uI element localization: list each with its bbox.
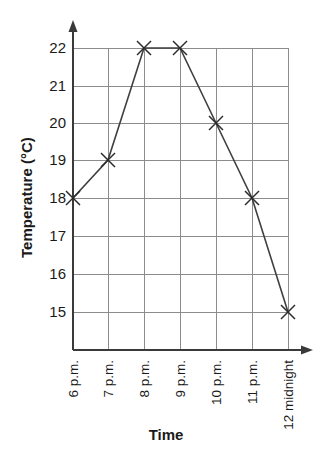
y-tick-label-6: 16 xyxy=(49,265,66,282)
y-axis xyxy=(69,20,78,350)
x-tick-label-5: 11 p.m. xyxy=(245,360,260,404)
x-tick-label-0: 6 p.m. xyxy=(66,360,81,398)
x-tick-label-6: 12 midnight xyxy=(281,360,296,430)
y-tick-labels: 22 21 20 19 18 17 16 15 xyxy=(49,39,66,320)
y-tick-label-2: 20 xyxy=(49,114,66,131)
y-axis-arrowhead xyxy=(69,20,78,32)
x-tick-label-4: 10 p.m. xyxy=(209,360,224,405)
x-axis xyxy=(73,346,313,355)
y-tick-label-7: 15 xyxy=(49,303,66,320)
y-tick-label-1: 21 xyxy=(49,77,66,94)
y-tick-label-3: 19 xyxy=(49,151,66,168)
temperature-line-chart: 22 21 20 19 18 17 16 15 6 p.m. 7 p.m. 8 … xyxy=(0,0,328,464)
x-tick-labels: 6 p.m. 7 p.m. 8 p.m. 9 p.m. 10 p.m. 11 p… xyxy=(66,360,296,430)
y-axis-title: Temperature (°C) xyxy=(18,137,35,258)
y-tick-label-4: 18 xyxy=(49,189,66,206)
y-tick-label-0: 22 xyxy=(49,39,66,56)
x-axis-arrowhead xyxy=(301,346,313,355)
x-axis-title: Time xyxy=(149,426,184,443)
vertical-gridlines xyxy=(73,48,288,350)
chart-canvas: 22 21 20 19 18 17 16 15 6 p.m. 7 p.m. 8 … xyxy=(0,0,328,464)
x-tick-label-1: 7 p.m. xyxy=(101,360,116,398)
y-tick-label-5: 17 xyxy=(49,227,66,244)
x-tick-label-2: 8 p.m. xyxy=(137,360,152,398)
x-tick-label-3: 9 p.m. xyxy=(173,360,188,398)
